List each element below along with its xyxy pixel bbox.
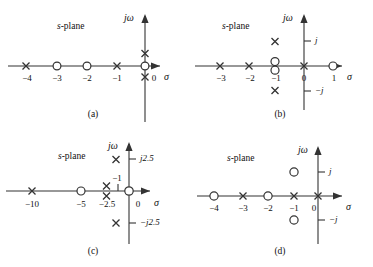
imag-axis-arrow [141, 14, 148, 23]
real-axis-label-c: σ [154, 198, 159, 208]
tick-label-c-0: −10 [21, 200, 43, 209]
real-axis-label-a: σ [164, 72, 169, 82]
s-plane-label-d: s-plane [227, 154, 254, 164]
s-plane-label-c: s-plane [58, 152, 85, 162]
tick-label-c-1: −5 [72, 200, 90, 209]
caption-c: (c) [0, 247, 186, 257]
tick-label-d-3: −1 [285, 204, 303, 213]
real-axis-arrow [151, 62, 160, 69]
imag-axis-arrow [300, 14, 307, 23]
s-plane-label-a: s-plane [57, 22, 84, 32]
real-axis-arrow [141, 187, 150, 194]
tick-label-d-4: 0 [308, 204, 320, 213]
tick-label-d-1: −3 [234, 204, 252, 213]
caption-b: (b) [187, 110, 373, 120]
panel-d: s-plane jω σ −4 −3 −2 −1 0 j −j (d) [187, 134, 373, 267]
tick-label-a-1: −3 [48, 74, 66, 83]
tick-label-d-2: −2 [259, 204, 277, 213]
tick-label-c-2: −2.5 [95, 200, 119, 209]
tick-label-a-4: 0 [148, 74, 160, 83]
imag-axis-label-c: jω [108, 141, 118, 151]
minor-tick-label-c: −1 [110, 174, 124, 183]
real-axis-label-d: σ [346, 202, 351, 212]
tick-label-c-3: 0 [132, 200, 144, 209]
real-axis-label-b: σ [347, 72, 352, 82]
imag-axis-label-d: jω [298, 145, 308, 155]
real-axis-arrow [333, 192, 342, 199]
imag-tick-label-d-pos: j [329, 167, 343, 176]
tick-label-b-0: −3 [212, 74, 230, 83]
imag-axis-label-b: jω [283, 13, 293, 23]
imag-tick-label-d-neg: −j [329, 215, 347, 224]
panel-a: s-plane jω σ −4 −3 −2 −1 0 (a) [0, 0, 186, 133]
tick-label-a-0: −4 [18, 74, 36, 83]
tick-label-a-3: −1 [108, 74, 126, 83]
imag-tick-label-c-neg: −j2.5 [140, 218, 170, 227]
s-plane-label-b: s-plane [222, 22, 249, 32]
imag-axis-arrow [314, 146, 321, 155]
tick-label-b-3: 0 [298, 74, 310, 83]
panel-b: s-plane jω σ −3 −2 −1 0 1 j −j (b) [187, 0, 373, 133]
caption-d: (d) [187, 247, 373, 257]
tick-label-b-4: 1 [328, 74, 340, 83]
imag-axis-label-a: jω [124, 13, 134, 23]
pole-zero-figure: s-plane jω σ −4 −3 −2 −1 0 (a) [0, 0, 373, 267]
panel-c: s-plane jω σ −10 −5 −2.5 0 −1 j2.5 −j2.5… [0, 134, 186, 267]
tick-label-b-2: −1 [267, 74, 285, 83]
caption-a: (a) [0, 110, 186, 120]
tick-label-a-2: −2 [78, 74, 96, 83]
imag-axis-arrow [125, 142, 132, 151]
imag-tick-label-b-pos: j [315, 36, 329, 45]
tick-label-d-0: −4 [205, 204, 223, 213]
imag-tick-label-b-neg: −j [315, 86, 333, 95]
imag-tick-label-c-pos: j2.5 [140, 154, 166, 163]
tick-label-b-1: −2 [241, 74, 259, 83]
